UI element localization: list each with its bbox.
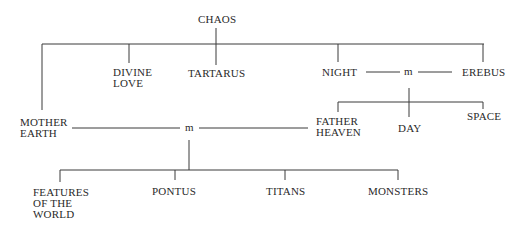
node-label: CHAOS [198,14,236,25]
node-erebus: EREBUS [462,67,505,78]
node-label: TARTARUS [188,68,245,79]
node-titans: TITANS [266,186,305,197]
node-label: SPACE [467,111,501,122]
node-monsters: MONSTERS [368,186,428,197]
node-mother-earth: MOTHER EARTH [20,117,68,139]
node-day: DAY [398,123,421,134]
node-features-of-the-world: FEATURES OF THE WORLD [33,187,89,220]
node-father-heaven: FATHER HEAVEN [316,116,361,138]
node-label: EREBUS [462,67,505,78]
node-label: DAY [398,123,421,134]
node-label: MONSTERS [368,186,428,197]
marriage-night-erebus: m [404,66,413,77]
node-label: WORLD [33,209,89,220]
node-divine-love: DIVINE LOVE [113,67,152,89]
node-tartarus: TARTARUS [188,68,245,79]
node-label: LOVE [113,78,152,89]
node-label: PONTUS [152,186,196,197]
node-label: HEAVEN [316,127,361,138]
node-label: NIGHT [322,67,357,78]
node-space: SPACE [467,111,501,122]
node-night: NIGHT [322,67,357,78]
node-label: EARTH [20,128,68,139]
marriage-earth-heaven: m [185,122,194,133]
node-pontus: PONTUS [152,186,196,197]
node-label: TITANS [266,186,305,197]
node-chaos: CHAOS [198,14,236,25]
